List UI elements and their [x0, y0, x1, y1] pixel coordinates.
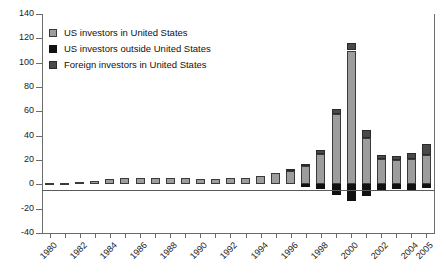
bar-chart: 140120100806040200-20-40 198019821984198…	[0, 0, 446, 278]
bar-group	[392, 14, 401, 233]
bar-segment-us-investors-in-united-states	[181, 178, 190, 184]
bar-segment-us-investors-in-united-states	[60, 183, 69, 185]
x-axis-tick	[185, 233, 186, 238]
bar-segment-us-investors-in-united-states	[362, 138, 371, 184]
bar-segment-us-investors-in-united-states	[75, 182, 84, 184]
bar-segment-us-investors-in-united-states	[332, 114, 341, 185]
y-axis-label: 140	[0, 9, 34, 18]
legend-label: Foreign investors in United States	[64, 60, 207, 70]
zero-line	[42, 190, 435, 191]
y-axis-label: 40	[0, 131, 34, 140]
x-axis-tick	[125, 233, 126, 238]
bar-segment-us-investors-in-united-states	[347, 51, 356, 185]
bar-group	[301, 14, 310, 233]
bar-segment-foreign-investors-in-united-states	[332, 109, 341, 114]
chart-legend: US investors in United States US investo…	[49, 26, 211, 74]
x-axis-tick	[230, 233, 231, 238]
bar-group	[316, 14, 325, 233]
y-axis-label: -20	[0, 204, 34, 213]
x-axis-tick	[396, 233, 397, 238]
x-axis-tick	[50, 233, 51, 238]
x-axis-tick	[95, 233, 96, 238]
legend-item-us-investors-in-united-states: US investors in United States	[49, 26, 211, 40]
bar-segment-foreign-investors-in-united-states	[407, 153, 416, 159]
bar-segment-foreign-investors-in-united-states	[347, 43, 356, 50]
x-axis-tick	[411, 233, 412, 238]
bar-group	[241, 14, 250, 233]
bar-group	[286, 14, 295, 233]
x-axis-tick	[110, 233, 111, 238]
x-axis-tick	[261, 233, 262, 238]
bar-segment-us-investors-in-united-states	[301, 166, 310, 184]
legend-label: US investors in United States	[64, 28, 188, 38]
bar-segment-us-investors-in-united-states	[316, 154, 325, 184]
bar-segment-us-investors-outside-united-states	[301, 184, 310, 186]
y-axis-label: 60	[0, 106, 34, 115]
bar-segment-us-investors-in-united-states	[211, 179, 220, 184]
x-axis-tick	[381, 233, 382, 238]
bar-segment-us-investors-in-united-states	[271, 173, 280, 184]
bar-segment-us-investors-in-united-states	[151, 178, 160, 184]
y-axis-label: -40	[0, 228, 34, 237]
y-axis-label: 100	[0, 58, 34, 67]
bar-segment-us-investors-in-united-states	[120, 178, 129, 184]
bar-segment-us-investors-outside-united-states	[347, 184, 356, 201]
x-axis-tick	[276, 233, 277, 238]
bar-segment-us-investors-outside-united-states	[422, 184, 431, 188]
bar-segment-us-investors-in-united-states	[226, 178, 235, 184]
bar-group	[377, 14, 386, 233]
x-axis-tick	[291, 233, 292, 238]
light-gray-square-icon	[49, 29, 57, 37]
bar-segment-foreign-investors-in-united-states	[362, 130, 371, 139]
bar-segment-us-investors-outside-united-states	[316, 184, 325, 189]
x-axis-tick	[426, 233, 427, 238]
dark-gray-square-icon	[49, 61, 57, 69]
bar-group	[332, 14, 341, 233]
bar-segment-us-investors-in-united-states	[407, 159, 416, 185]
bar-segment-foreign-investors-in-united-states	[286, 169, 295, 171]
legend-item-foreign-investors-in-united-states: Foreign investors in United States	[49, 58, 211, 72]
right-axis-line	[434, 14, 435, 234]
bar-group	[226, 14, 235, 233]
bar-segment-us-investors-in-united-states	[422, 155, 431, 184]
x-axis-tick	[140, 233, 141, 238]
bar-segment-us-investors-in-united-states	[166, 178, 175, 184]
bar-segment-us-investors-in-united-states	[286, 171, 295, 184]
bar-group	[407, 14, 416, 233]
bar-group	[362, 14, 371, 233]
x-axis-tick	[65, 233, 66, 238]
bar-segment-us-investors-in-united-states	[105, 179, 114, 184]
bar-group	[211, 14, 220, 233]
x-axis-tick	[215, 233, 216, 238]
bar-segment-foreign-investors-in-united-states	[316, 150, 325, 154]
bar-group	[271, 14, 280, 233]
x-axis-tick	[336, 233, 337, 238]
bar-segment-us-investors-in-united-states	[90, 181, 99, 185]
bar-segment-us-investors-in-united-states	[377, 159, 386, 185]
bar-segment-foreign-investors-in-united-states	[301, 164, 310, 166]
x-axis-tick	[170, 233, 171, 238]
bar-segment-us-investors-outside-united-states	[392, 184, 401, 189]
legend-label: US investors outside United States	[64, 44, 211, 54]
y-axis-label: 20	[0, 155, 34, 164]
bar-segment-us-investors-in-united-states	[241, 178, 250, 184]
x-axis-tick	[200, 233, 201, 238]
bar-segment-us-investors-in-united-states	[136, 178, 145, 184]
bar-segment-foreign-investors-in-united-states	[377, 155, 386, 159]
y-axis-label: 0	[0, 179, 34, 188]
x-axis-tick	[306, 233, 307, 238]
x-axis-tick	[366, 233, 367, 238]
x-axis-tick	[351, 233, 352, 238]
y-axis-label: 120	[0, 33, 34, 42]
x-axis-tick	[246, 233, 247, 238]
bar-segment-us-investors-in-united-states	[392, 160, 401, 184]
x-axis-tick	[80, 233, 81, 238]
legend-item-us-investors-outside-united-states: US investors outside United States	[49, 42, 211, 56]
bar-group	[422, 14, 431, 233]
bar-group	[347, 14, 356, 233]
black-square-icon	[49, 45, 57, 53]
x-axis-line	[42, 233, 435, 234]
y-axis-label: 80	[0, 82, 34, 91]
x-axis-tick	[321, 233, 322, 238]
bar-segment-us-investors-in-united-states	[45, 183, 54, 185]
